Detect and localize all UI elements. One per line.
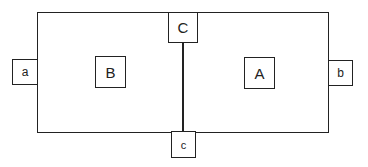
bottom-connector-label: c [181,139,187,151]
left-port-label: a [22,65,29,79]
top-connector-box: C [168,12,198,43]
right-port-box: b [328,60,353,86]
right-port-label: b [337,66,344,80]
region-b-label: B [105,64,115,81]
region-b-box: B [95,56,126,88]
region-a-box: A [244,57,275,89]
region-a-label: A [254,65,264,82]
top-connector-label: C [178,19,189,36]
bottom-connector-box: c [171,131,196,158]
center-divider [182,42,184,132]
left-port-box: a [12,59,38,85]
